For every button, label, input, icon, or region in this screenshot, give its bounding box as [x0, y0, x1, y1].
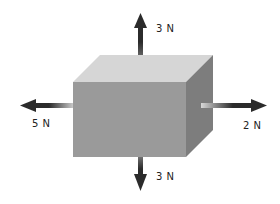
block	[73, 55, 213, 157]
block-front-face	[73, 82, 186, 157]
arrow-left-icon	[20, 99, 73, 112]
force-label-left: 5 N	[32, 118, 51, 129]
force-diagram	[0, 0, 280, 204]
force-label-right: 2 N	[243, 120, 262, 131]
arrow-down-icon	[134, 157, 147, 191]
force-label-down: 3 N	[156, 171, 175, 182]
force-label-up: 3 N	[156, 23, 175, 34]
